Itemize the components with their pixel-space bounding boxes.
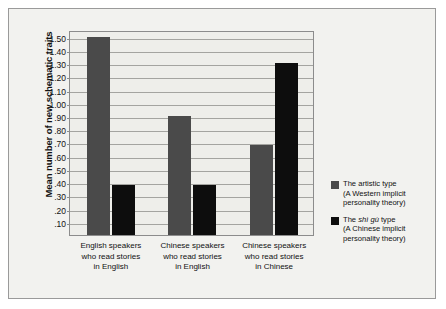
- y-tick-label: 1.00: [49, 100, 66, 110]
- y-tick-label: .30: [54, 192, 66, 202]
- category-label-line: who read stories: [231, 252, 317, 263]
- legend-line-1-pre: The: [343, 215, 358, 224]
- legend-line-1: The shì gù type: [343, 215, 431, 225]
- bar: [112, 185, 135, 235]
- y-tick-label: .50: [54, 166, 66, 176]
- legend-line-3: personality theory): [343, 198, 431, 208]
- legend-line-2: (A Chinese implicit: [343, 224, 431, 234]
- bar: [87, 37, 110, 235]
- legend-item-shigu-type: The shì gù type (A Chinese implicit pers…: [331, 215, 431, 244]
- category-label-line: Chinese speakers: [231, 241, 317, 252]
- category-label-line: in English: [68, 262, 154, 273]
- figure-frame: Mean number of new schematic traits 1.50…: [8, 8, 436, 299]
- category-label-line: in Chinese: [231, 262, 317, 273]
- legend-swatch-icon-artistic: [331, 181, 339, 189]
- y-tick-label: 1.50: [49, 34, 66, 44]
- x-axis-category-label: Chinese speakerswho read storiesin Chine…: [231, 241, 317, 273]
- legend-term-shigu: shì gù: [358, 215, 379, 224]
- legend-line-1-post: type: [379, 215, 395, 224]
- category-label-line: in English: [150, 262, 236, 273]
- y-tick-label: 1.40: [49, 47, 66, 57]
- bar: [193, 185, 216, 235]
- legend-line-1: The artistic type: [343, 179, 431, 189]
- bar: [275, 63, 298, 235]
- y-tick-label: .10: [54, 219, 66, 229]
- legend-line-3: personality theory): [343, 234, 431, 244]
- y-tick-label: .20: [54, 206, 66, 216]
- x-axis-category-label: Chinese speakerswho read storiesin Engli…: [150, 241, 236, 273]
- bar: [168, 116, 191, 235]
- bar: [250, 145, 273, 235]
- y-tick-label: 1.20: [49, 73, 66, 83]
- bar-group: [70, 32, 152, 235]
- y-tick-label: 1.30: [49, 60, 66, 70]
- category-label-line: English speakers: [68, 241, 154, 252]
- y-tick-label: .90: [54, 113, 66, 123]
- bar-group: [152, 32, 234, 235]
- y-axis-title: Mean number of new schematic traits: [43, 15, 54, 215]
- category-label-line: who read stories: [150, 252, 236, 263]
- y-tick-label: .40: [54, 179, 66, 189]
- plot-area: 1.501.401.301.201.101.00.90.80.70.60.50.…: [69, 31, 314, 236]
- category-label-line: Chinese speakers: [150, 241, 236, 252]
- legend-label-artistic: The artistic type (A Western implicit pe…: [343, 179, 431, 208]
- chart-legend: The artistic type (A Western implicit pe…: [331, 179, 431, 251]
- x-axis-category-label: English speakerswho read storiesin Engli…: [68, 241, 154, 273]
- legend-line-2: (A Western implicit: [343, 189, 431, 199]
- legend-swatch-icon-shigu: [331, 217, 339, 225]
- bar-group: [233, 32, 315, 235]
- y-tick-label: 1.10: [49, 87, 66, 97]
- y-tick-label: .60: [54, 153, 66, 163]
- legend-label-shigu: The shì gù type (A Chinese implicit pers…: [343, 215, 431, 244]
- legend-item-artistic-type: The artistic type (A Western implicit pe…: [331, 179, 431, 208]
- y-tick-label: .70: [54, 139, 66, 149]
- y-tick-label: .80: [54, 126, 66, 136]
- category-label-line: who read stories: [68, 252, 154, 263]
